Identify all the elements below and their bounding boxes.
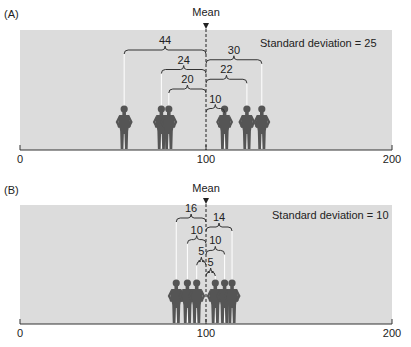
deviation-label: 10: [209, 234, 221, 246]
axis-tick-label: 100: [197, 327, 215, 339]
deviation-label: 10: [191, 224, 203, 236]
axis-tick-label: 0: [17, 327, 23, 339]
deviation-label: 20: [181, 73, 193, 85]
deviation-label: 14: [213, 211, 225, 223]
deviation-label: 5: [198, 245, 204, 257]
standard-deviation-label: Standard deviation = 25: [260, 37, 377, 49]
axis-tick-label: 0: [17, 153, 23, 165]
mean-label: Mean: [192, 182, 220, 194]
panel-a: (A)MeanStandard deviation = 254430242220…: [4, 6, 401, 165]
standard-deviation-diagram: (A)MeanStandard deviation = 254430242220…: [0, 0, 411, 347]
deviation-label: 5: [208, 256, 214, 268]
axis-tick-label: 200: [383, 327, 401, 339]
deviation-label: 24: [178, 54, 190, 66]
deviation-label: 30: [228, 44, 240, 56]
deviation-label: 22: [220, 63, 232, 75]
axis-tick-label: 200: [383, 153, 401, 165]
standard-deviation-label: Standard deviation = 10: [272, 209, 389, 221]
deviation-label: 44: [159, 34, 171, 46]
axis-tick-label: 100: [197, 153, 215, 165]
mean-arrow-icon: [203, 23, 209, 29]
mean-arrow-icon: [203, 198, 209, 204]
panel-label: (B): [4, 184, 19, 196]
deviation-label: 16: [185, 202, 197, 214]
mean-label: Mean: [192, 6, 220, 18]
panel-b: (B)MeanStandard deviation = 101614101055…: [4, 182, 401, 339]
deviation-label: 10: [209, 93, 221, 105]
panel-label: (A): [4, 8, 19, 20]
